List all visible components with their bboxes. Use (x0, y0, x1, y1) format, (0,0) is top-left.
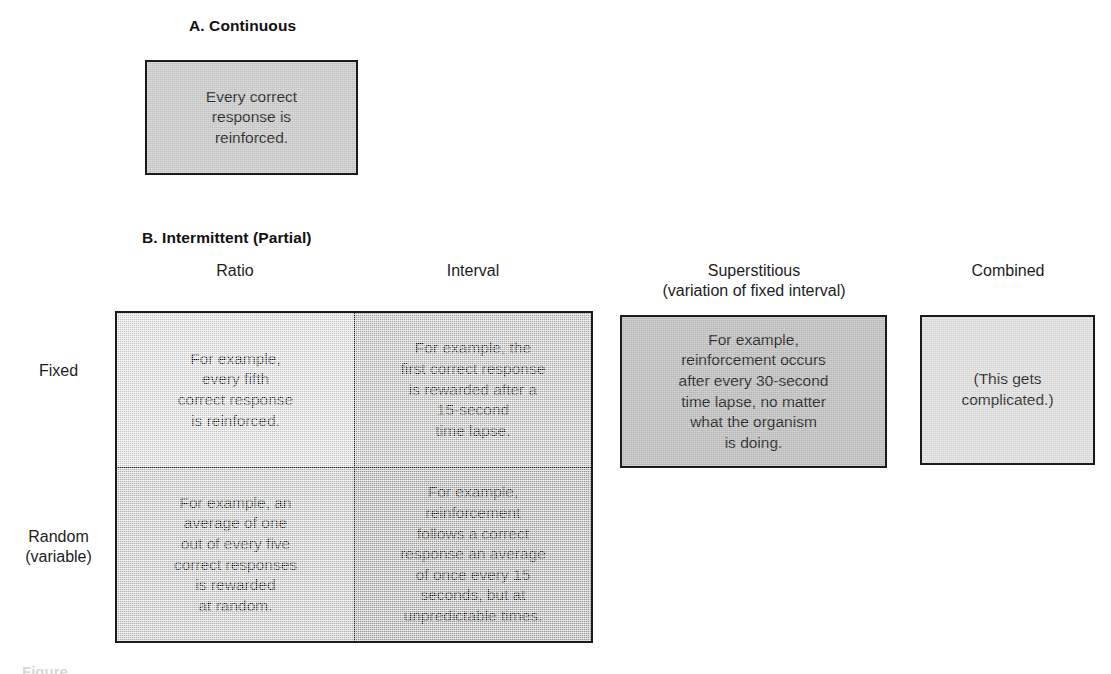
matrix-cell-random-ratio: For example, an average of one out of ev… (117, 467, 354, 641)
continuous-schedule-box: Every correct response is reinforced. (145, 60, 358, 175)
superstitious-schedule-text: For example, reinforcement occurs after … (673, 330, 835, 454)
matrix-cell-random-interval: For example, reinforcement follows a cor… (354, 467, 591, 641)
superstitious-schedule-box: For example, reinforcement occurs after … (620, 315, 887, 468)
column-header-superstitious: Superstitious (variation of fixed interv… (629, 261, 879, 302)
matrix-cell-fixed-interval-text: For example, the first correct response … (395, 338, 552, 441)
continuous-schedule-text: Every correct response is reinforced. (200, 87, 303, 149)
caption-remnant: Figure (22, 663, 142, 674)
section-b-heading: B. Intermittent (Partial) (142, 229, 312, 247)
combined-schedule-text: (This gets complicated.) (955, 369, 1059, 410)
schedules-matrix: For example, every fifth correct respons… (115, 311, 593, 643)
reinforcement-schedules-figure: A. Continuous Every correct response is … (0, 0, 1111, 674)
matrix-cell-random-interval-text: For example, reinforcement follows a cor… (394, 482, 552, 626)
column-header-combined: Combined (932, 261, 1084, 281)
matrix-cell-fixed-interval: For example, the first correct response … (354, 313, 591, 467)
section-a-heading: A. Continuous (189, 17, 296, 35)
row-label-fixed: Fixed (6, 361, 111, 381)
matrix-cell-fixed-ratio-text: For example, every fifth correct respons… (172, 349, 299, 431)
row-label-random: Random (variable) (6, 527, 111, 568)
combined-schedule-box: (This gets complicated.) (920, 315, 1095, 465)
column-header-interval: Interval (398, 261, 548, 281)
column-header-ratio: Ratio (160, 261, 310, 281)
matrix-cell-random-ratio-text: For example, an average of one out of ev… (168, 493, 303, 617)
matrix-cell-fixed-ratio: For example, every fifth correct respons… (117, 313, 354, 467)
